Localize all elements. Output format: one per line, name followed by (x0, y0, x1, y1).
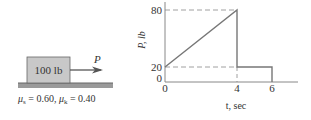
y-axis-label: P, lb (136, 31, 147, 50)
figure: 100 lb P μs = 0.60, μk = 0.40 80 20 0 0 … (0, 0, 311, 120)
friction-label: μs = 0.60, μk = 0.40 (17, 93, 96, 106)
x-axis-label: t, sec (226, 100, 247, 111)
force-arrow-icon (70, 67, 103, 74)
mu-s-value: = 0.60, (26, 93, 59, 104)
force-time-graph: 80 20 0 0 4 6 P, lb t, sec (136, 2, 298, 111)
mu-k-value: = 0.40 (67, 93, 95, 104)
block-diagram: 100 lb P μs = 0.60, μk = 0.40 (17, 53, 113, 106)
xtick-6: 6 (269, 82, 275, 94)
force-curve (165, 10, 272, 82)
xtick-4: 4 (234, 82, 240, 94)
ytick-80: 80 (151, 4, 163, 16)
xtick-0: 0 (162, 82, 168, 94)
block-weight-label: 100 lb (35, 64, 63, 76)
force-label: P (93, 53, 101, 65)
ground (18, 83, 113, 88)
